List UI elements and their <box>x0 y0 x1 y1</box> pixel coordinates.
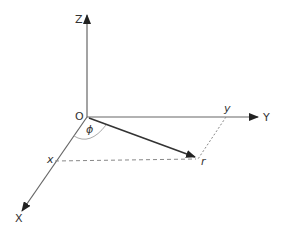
x-axis-label: X <box>15 213 23 224</box>
y-projection-label: y <box>224 103 231 114</box>
r-vector <box>89 118 195 157</box>
x-projection-label: x <box>47 154 54 165</box>
z-axis-label: Z <box>75 14 83 25</box>
r-vector-label: r <box>201 156 206 167</box>
origin-label: O <box>75 111 84 122</box>
y-projection-dotted <box>198 117 226 159</box>
phi-label: ϕ <box>86 124 93 135</box>
x-projection-dashed <box>55 159 196 161</box>
coordinate-diagram: Z Y X O ϕ x y r <box>0 0 283 229</box>
x-axis <box>22 117 87 211</box>
y-axis-label: Y <box>263 112 270 123</box>
diagram-canvas <box>0 0 283 229</box>
